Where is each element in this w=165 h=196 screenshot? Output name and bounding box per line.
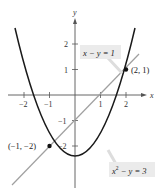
y-tick-minus-1: −1 bbox=[58, 117, 67, 126]
x-tick-minus-1: −1 bbox=[44, 100, 53, 109]
intersection-point-minus1-minus2 bbox=[47, 144, 51, 148]
x-axis-arrow-icon bbox=[141, 93, 147, 97]
x-tick-2: 2 bbox=[124, 100, 128, 109]
graph: x y −2 −1 1 2 2 1 −1 −2 x − y = 1 x2 − y… bbox=[0, 0, 165, 196]
line-equation-label: x − y = 1 bbox=[82, 48, 115, 58]
intersection-label-minus1-minus2: (−1, −2) bbox=[8, 141, 36, 151]
x-tick-1: 1 bbox=[99, 100, 103, 109]
axes: x y −2 −1 1 2 2 1 −1 −2 bbox=[8, 8, 154, 188]
y-axis-label: y bbox=[72, 8, 77, 17]
x-tick-minus-2: −2 bbox=[19, 100, 28, 109]
y-axis-arrow-icon bbox=[73, 18, 77, 24]
parabola-equation-callout: x2 − y = 3 bbox=[108, 150, 155, 177]
intersection-label-2-1: (2, 1) bbox=[131, 65, 150, 75]
x-axis-label: x bbox=[149, 91, 154, 100]
intersection-point-2-1 bbox=[124, 67, 128, 71]
y-tick-1: 1 bbox=[64, 66, 68, 75]
line-equation-callout: x − y = 1 bbox=[80, 45, 122, 73]
y-tick-2: 2 bbox=[64, 40, 68, 49]
